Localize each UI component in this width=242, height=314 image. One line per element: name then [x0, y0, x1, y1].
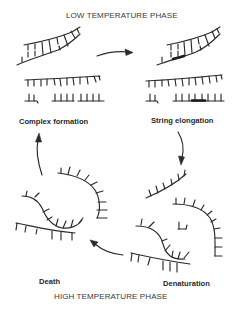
denaturation-strand-2	[173, 198, 222, 256]
cycle-illustration	[0, 0, 242, 314]
arrow-complex-to-elongation	[97, 49, 133, 56]
complex-formation-upper-duplex	[17, 27, 80, 65]
death-strand-2	[22, 191, 83, 228]
arrow-denaturation-to-death	[90, 240, 123, 255]
arrow-death-to-complex	[36, 133, 43, 175]
death-strand-3	[16, 223, 75, 240]
string-elongation-lower-duplex	[146, 75, 224, 103]
denaturation-strand-3	[136, 219, 189, 259]
denaturation-small-fragment	[178, 222, 187, 229]
string-elongation-upper-duplex	[157, 27, 220, 65]
arrow-elongation-to-denaturation	[178, 132, 185, 165]
denaturation-strand-4	[131, 253, 190, 272]
denaturation-strand-1	[146, 170, 186, 198]
complex-formation-lower-duplex	[25, 76, 104, 103]
death-strand-1	[58, 167, 107, 218]
